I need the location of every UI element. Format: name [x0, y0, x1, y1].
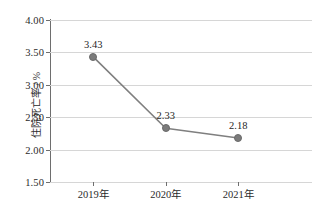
x-axis-tick-label: 2020年 — [150, 186, 181, 201]
data-point-label: 2.33 — [157, 110, 175, 121]
y-axis-tick-label: 3.50 — [25, 47, 44, 58]
gridline — [50, 182, 312, 183]
data-point-label: 2.18 — [229, 120, 247, 131]
data-point-marker — [89, 53, 97, 61]
plot-area: 1.502.002.503.003.504.00 3.432.332.18 — [50, 20, 312, 182]
x-axis-tick-label: 2019年 — [78, 186, 109, 201]
y-axis-tick-label: 4.00 — [25, 15, 44, 26]
y-axis-tick-label: 1.50 — [25, 177, 44, 188]
x-axis-tick-label: 2021年 — [223, 186, 254, 201]
data-point-marker — [162, 124, 170, 132]
y-axis-tick-label: 2.00 — [25, 144, 44, 155]
data-point-marker — [234, 134, 242, 142]
y-axis-tick-label: 3.00 — [25, 79, 44, 90]
y-axis-tick-label: 2.50 — [25, 112, 44, 123]
y-axis-tick — [46, 182, 50, 183]
line-chart: 住院死亡率 / % 1.502.002.503.003.504.00 3.432… — [0, 0, 321, 210]
data-point-label: 3.43 — [84, 39, 102, 50]
